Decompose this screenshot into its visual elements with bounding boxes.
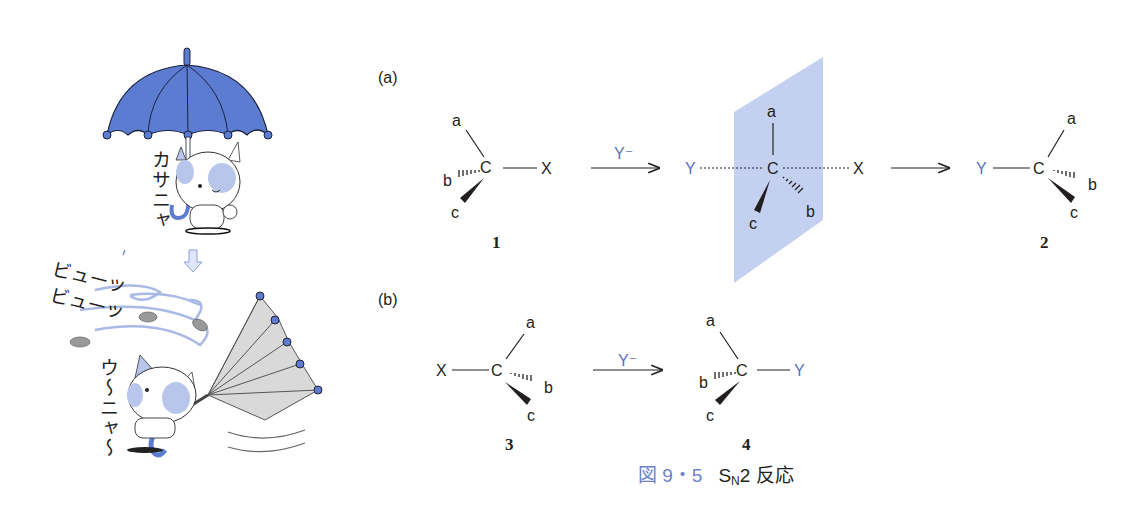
- molecule-3: X C a b c 3: [436, 314, 553, 454]
- title-subscript: N: [731, 474, 740, 488]
- svg-text:c: c: [706, 407, 714, 424]
- svg-text:c: c: [451, 204, 459, 221]
- transition-state: Y C X a c b: [685, 57, 864, 283]
- svg-text:b: b: [806, 203, 815, 220]
- compound-number-1: 1: [492, 233, 501, 252]
- compound-number-3: 3: [505, 435, 514, 454]
- svg-text:c: c: [527, 407, 535, 424]
- svg-text:a: a: [767, 103, 776, 120]
- svg-text:c: c: [1070, 204, 1078, 221]
- svg-text:C: C: [491, 362, 503, 379]
- svg-text:X: X: [853, 160, 864, 177]
- svg-text:b: b: [1088, 176, 1097, 193]
- reagent-label: Y⁻: [614, 145, 633, 162]
- molecule-2: Y C a b c 2: [976, 110, 1097, 252]
- svg-text:b: b: [544, 379, 553, 396]
- svg-text:b: b: [443, 172, 452, 189]
- reagent-label-b: Y⁻: [618, 352, 637, 369]
- figure-number: 図 9・5: [638, 465, 702, 486]
- svg-text:b: b: [699, 374, 708, 391]
- sn2-diagram: (a) a C X b c 1 Y⁻ Y C X a c: [0, 0, 1125, 508]
- svg-text:C: C: [480, 159, 492, 176]
- figure-caption: 図 9・5SN2 反応: [638, 460, 794, 488]
- svg-text:a: a: [706, 312, 715, 329]
- svg-text:a: a: [1067, 110, 1076, 127]
- svg-text:X: X: [541, 160, 552, 177]
- molecule-1: a C X b c 1: [443, 112, 552, 252]
- svg-text:a: a: [526, 314, 535, 331]
- svg-text:X: X: [436, 362, 447, 379]
- panel-a-label: (a): [378, 69, 398, 86]
- molecule-4: a C Y b c 4: [699, 312, 805, 454]
- svg-text:Y: Y: [976, 160, 987, 177]
- title-s: S: [718, 465, 731, 486]
- compound-number-2: 2: [1040, 233, 1049, 252]
- svg-text:Y: Y: [685, 160, 696, 177]
- svg-text:C: C: [736, 362, 748, 379]
- svg-text:C: C: [767, 160, 779, 177]
- svg-text:Y: Y: [794, 362, 805, 379]
- svg-text:a: a: [452, 112, 461, 129]
- panel-b-label: (b): [378, 291, 398, 308]
- figure-title: SN2 反応: [718, 465, 793, 486]
- title-rest: 2 反応: [740, 465, 794, 486]
- svg-text:C: C: [1033, 160, 1045, 177]
- compound-number-4: 4: [742, 435, 751, 454]
- svg-text:c: c: [749, 215, 757, 232]
